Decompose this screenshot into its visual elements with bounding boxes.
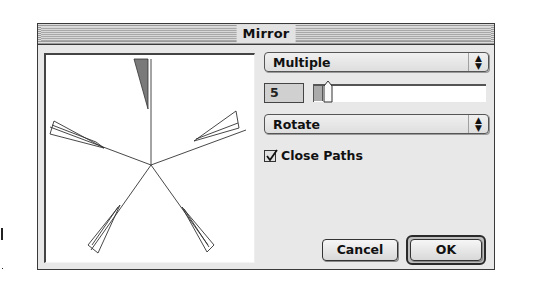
copies-count-field[interactable]: 5 (264, 83, 304, 103)
transform-popup[interactable]: Rotate ▲▼ (264, 114, 489, 134)
dialog-title: Mirror (237, 25, 296, 43)
close-paths-checkbox[interactable] (264, 150, 276, 162)
edge-dot (2, 268, 3, 269)
mirror-dialog: Mirror (37, 23, 495, 270)
slider-track (313, 84, 486, 102)
cancel-button[interactable]: Cancel (322, 239, 398, 261)
transform-popup-value: Rotate (273, 116, 320, 133)
preview-drawing (46, 55, 255, 263)
mirror-preview (44, 53, 255, 263)
title-bar[interactable]: Mirror (38, 24, 494, 45)
up-down-arrows-icon: ▲▼ (468, 115, 488, 133)
slider-thumb[interactable] (323, 80, 333, 103)
slider-fill (314, 86, 323, 101)
up-down-arrows-icon: ▲▼ (468, 53, 488, 71)
copies-slider[interactable] (313, 84, 486, 103)
ok-button[interactable]: OK (410, 239, 482, 261)
close-paths-label: Close Paths (281, 148, 363, 164)
mode-popup-value: Multiple (273, 54, 331, 71)
checkmark-icon (265, 149, 279, 163)
mode-popup[interactable]: Multiple ▲▼ (264, 52, 489, 72)
edge-mark (1, 228, 3, 240)
